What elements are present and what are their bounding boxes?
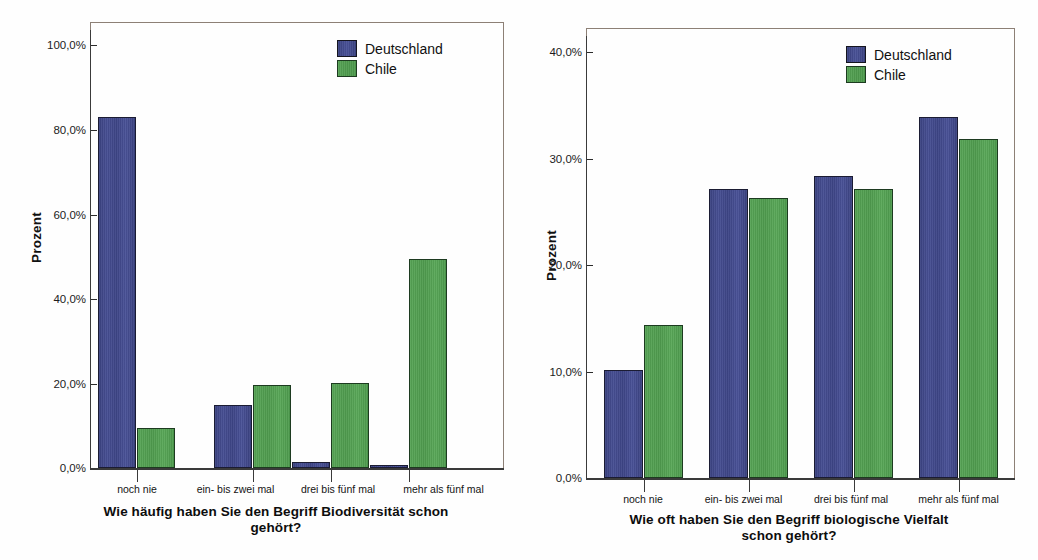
right-cat-label-ein-bis-zwei: ein- bis zwei mal — [691, 494, 796, 506]
right-x-axis-title-line2: schon gehört? — [741, 528, 836, 543]
right-legend-label-deutschland: Deutschland — [874, 47, 952, 63]
right-bar-chile-ein-bis-zwei — [749, 198, 788, 478]
right-cat-label-drei-bis-fuenf: drei bis fünf mal — [801, 494, 901, 506]
legend-swatch-chile-icon — [337, 60, 357, 77]
left-bar-deutschland-drei-bis-fuenf — [292, 462, 330, 468]
left-ytick-label-20: 20,0% — [53, 379, 90, 391]
right-bar-deutschland-drei-bis-fuenf — [814, 176, 853, 478]
right-cat-tick-4 — [959, 478, 960, 492]
right-x-axis-title-line1: Wie oft haben Sie den Begriff biologisch… — [630, 512, 949, 527]
left-y-axis-title: Prozent — [29, 198, 44, 278]
left-bar-chile-ein-bis-zwei — [253, 385, 291, 468]
left-cat-label-drei-bis-fuenf: drei bis fünf mal — [288, 484, 388, 496]
left-bar-chile-drei-bis-fuenf — [331, 383, 369, 468]
legend-swatch-deutschland-icon — [846, 46, 866, 63]
legend-swatch-chile-icon — [846, 66, 866, 83]
left-cat-tick-1 — [137, 468, 138, 482]
left-bar-chile-noch-nie — [137, 428, 175, 468]
left-bar-deutschland-ein-bis-zwei — [214, 405, 252, 468]
left-ytick-label-0: 0,0% — [60, 463, 90, 475]
left-ytick-label-80: 80,0% — [53, 125, 90, 137]
right-bar-chile-mehr-als-fuenf — [959, 139, 998, 478]
left-x-axis-title-line1: Wie häufig haben Sie den Begriff Biodive… — [104, 504, 449, 519]
left-ytick-mark-100 — [90, 45, 97, 46]
right-bar-chile-noch-nie — [644, 325, 683, 478]
left-legend-label-deutschland: Deutschland — [365, 41, 443, 57]
right-cat-label-mehr-als-fuenf: mehr als fünf mal — [901, 494, 1016, 506]
left-bar-deutschland-noch-nie — [98, 117, 136, 468]
left-y-axis-line — [90, 30, 91, 468]
right-ytick-label-40: 40,0% — [549, 47, 586, 59]
left-legend-item-chile: Chile — [337, 60, 443, 77]
left-ytick-label-100: 100,0% — [47, 40, 90, 52]
right-y-axis-line — [586, 36, 587, 478]
left-ytick-label-60: 60,0% — [53, 210, 90, 222]
left-ytick-mark-60 — [90, 215, 97, 216]
left-ytick-mark-40 — [90, 299, 97, 300]
right-x-axis-line — [586, 478, 1015, 480]
right-cat-tick-1 — [644, 478, 645, 492]
left-x-axis-title-line2: gehört? — [251, 520, 302, 535]
right-legend-label-chile: Chile — [874, 67, 906, 83]
left-cat-tick-2 — [253, 468, 254, 482]
right-y-axis-title: Prozent — [544, 216, 559, 296]
right-ytick-label-20: 20,0% — [549, 260, 586, 272]
right-cat-tick-3 — [854, 478, 855, 492]
left-ytick-label-40: 40,0% — [53, 294, 90, 306]
left-x-axis-title: Wie häufig haben Sie den Begriff Biodive… — [46, 504, 506, 536]
left-ytick-mark-80 — [90, 130, 97, 131]
right-ytick-label-0: 0,0% — [556, 473, 586, 485]
left-cat-tick-3 — [331, 468, 332, 482]
left-cat-label-mehr-als-fuenf: mehr als fünf mal — [386, 484, 501, 496]
left-cat-label-ein-bis-zwei: ein- bis zwei mal — [183, 484, 288, 496]
right-x-axis-title: Wie oft haben Sie den Begriff biologisch… — [559, 512, 1019, 544]
right-cat-tick-2 — [749, 478, 750, 492]
left-legend: Deutschland Chile — [337, 40, 443, 80]
right-bar-deutschland-ein-bis-zwei — [709, 189, 748, 478]
left-ytick-mark-20 — [90, 384, 97, 385]
right-legend-item-chile: Chile — [846, 66, 952, 83]
right-bar-deutschland-mehr-als-fuenf — [919, 117, 958, 478]
chart-left-biodiversitaet: Prozent 100,0% 80,0% 60,0% 40,0% 20,0% 0… — [0, 0, 519, 560]
legend-swatch-deutschland-icon — [337, 40, 357, 57]
left-legend-item-deutschland: Deutschland — [337, 40, 443, 57]
right-bar-chile-drei-bis-fuenf — [854, 189, 893, 478]
right-ytick-mark-20 — [586, 265, 593, 266]
right-legend-item-deutschland: Deutschland — [846, 46, 952, 63]
chart-right-biologische-vielfalt: Prozent 40,0% 30,0% 20,0% 10,0% 0,0% — [519, 0, 1038, 560]
right-ytick-mark-30 — [586, 159, 593, 160]
right-ytick-label-30: 30,0% — [549, 154, 586, 166]
left-bar-chile-mehr-als-fuenf — [409, 259, 447, 468]
left-cat-label-noch-nie: noch nie — [92, 484, 182, 496]
right-bar-deutschland-noch-nie — [604, 370, 643, 478]
right-cat-label-noch-nie: noch nie — [598, 494, 688, 506]
right-legend: Deutschland Chile — [846, 46, 952, 86]
left-legend-label-chile: Chile — [365, 61, 397, 77]
left-x-axis-line — [90, 468, 504, 470]
right-ytick-label-10: 10,0% — [549, 367, 586, 379]
figure-container: Prozent 100,0% 80,0% 60,0% 40,0% 20,0% 0… — [0, 0, 1038, 560]
right-ytick-mark-10 — [586, 372, 593, 373]
left-cat-tick-4 — [409, 468, 410, 482]
left-bar-deutschland-mehr-als-fuenf — [370, 465, 408, 468]
right-ytick-mark-40 — [586, 52, 593, 53]
